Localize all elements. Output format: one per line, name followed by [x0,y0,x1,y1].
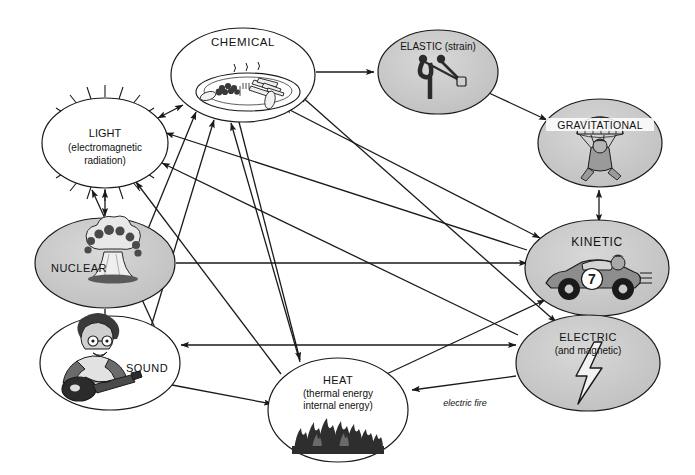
edge-chemical-kinetic [284,107,540,238]
energy-transformation-diagram: 7 [0,0,695,475]
node-nuclear[interactable]: NUCLEAR [35,216,175,308]
edge-chemical-light [158,105,183,118]
node-electric[interactable]: ELECTRIC (and magnetic) [516,315,660,411]
node-kinetic-label: KINETIC [571,235,623,249]
node-gravitational[interactable]: GRAVITATIONAL [538,99,662,187]
node-chemical[interactable]: CHEMICAL [171,28,315,122]
node-kinetic[interactable]: KINETIC [525,220,669,316]
node-chemical-label: CHEMICAL [211,36,275,48]
edge-sound-heat [172,385,272,404]
node-light-label-line3: radiation) [84,155,126,166]
edge-electric-heat [412,376,516,390]
node-light[interactable]: LIGHT (electromagnetic radiation) [42,85,168,201]
node-elastic[interactable]: ELASTIC (strain) [378,30,498,114]
node-electric-label-line2: (and magnetic) [555,345,622,356]
edge-elastic-gravitational [489,93,547,120]
node-heat-label-line3: internal energy) [303,400,372,411]
node-light-label-line1: LIGHT [89,127,122,139]
node-heat[interactable]: HEAT (thermal energy internal energy) [268,358,408,462]
edge-heat-chemical [231,123,300,362]
edge-chemical-heat [239,122,300,360]
node-nuclear-label: NUCLEAR [51,262,107,274]
edge-chemical-electric [300,95,556,322]
diagram-canvas: 7 [0,0,695,475]
node-light-label-line2: (electromagnetic [68,142,142,153]
node-sound[interactable]: SOUND [40,313,180,410]
node-electric-label-line1: ELECTRIC [559,331,617,343]
node-heat-label-line1: HEAT [323,374,353,386]
node-gravitational-label: GRAVITATIONAL [557,119,643,131]
node-sound-label: SOUND [126,362,168,374]
edge-label-electric-fire: electric fire [443,398,487,408]
node-heat-label-line2: (thermal energy [303,388,373,399]
node-elastic-label: ELASTIC (strain) [400,41,476,52]
